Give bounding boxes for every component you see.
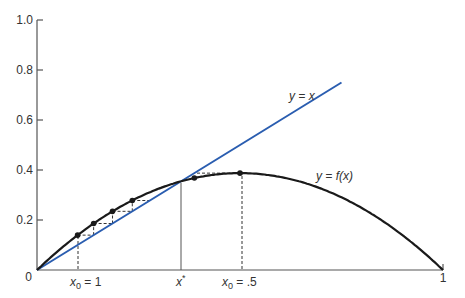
x-star-label-sup: * xyxy=(182,273,186,283)
curve-label-f: f(x) xyxy=(336,169,353,183)
y-tick-label: 1.0 xyxy=(16,13,33,27)
y-tick-label: 0.6 xyxy=(16,113,33,127)
curve-label: y = f(x) xyxy=(315,169,353,183)
iteration-dot xyxy=(91,221,97,227)
x0-1-label: x0 = 1 xyxy=(69,275,102,291)
iteration-dot xyxy=(192,175,198,181)
origin-label: 0 xyxy=(25,270,32,284)
x0-05-label-rest: = .5 xyxy=(233,275,257,289)
x-star-label: x* xyxy=(175,273,186,289)
iteration-dot xyxy=(237,170,243,176)
cobweb-left xyxy=(78,201,150,236)
y-tick-label: 0.2 xyxy=(16,213,33,227)
x0-1-label-rest: = 1 xyxy=(81,275,102,289)
y-tick-label: 0.4 xyxy=(16,163,33,177)
iteration-dot xyxy=(75,232,81,238)
iteration-dots xyxy=(75,170,243,238)
y-tick-label: 0.8 xyxy=(16,63,33,77)
iteration-dot xyxy=(110,209,116,215)
x-tick-label: 1 xyxy=(440,271,447,285)
x0-05-label: x0 = .5 xyxy=(221,275,257,291)
iteration-dot xyxy=(129,198,135,204)
f-curve xyxy=(37,173,443,270)
cobweb-chart: 1.0 0.8 0.6 0.4 0.2 0 1 y = x y = f(x) x… xyxy=(0,0,465,298)
curve-label-y: y = xyxy=(315,169,336,183)
identity-line-label: y = x xyxy=(288,89,316,103)
identity-line xyxy=(37,83,342,271)
axes: 1.0 0.8 0.6 0.4 0.2 0 1 xyxy=(16,13,446,285)
